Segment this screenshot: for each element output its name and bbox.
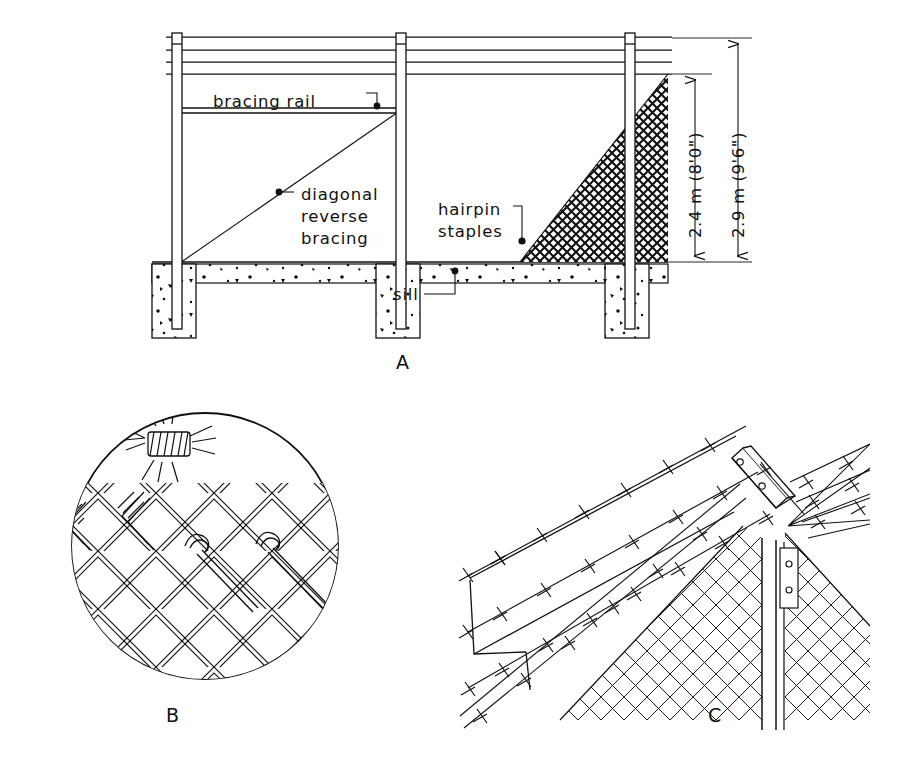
top-wire-strands [166,37,672,74]
figure-label-a: A [396,351,409,373]
post-right [625,33,635,329]
callout-diagonal-bracing-l2: reverse [301,207,369,226]
callout-sill: sill [393,285,419,304]
figure-b-mesh-detail: B [50,398,370,743]
figure-label-c: C [708,704,721,726]
leader-bracing-rail [366,93,380,109]
figure-a-elevation: bracing rail diagonal reverse bracing ha… [0,0,912,400]
post-left [172,33,182,329]
chain-link-mesh [50,483,370,743]
dimension-fabric-height: 2.4 m (8'0") [686,132,705,238]
figure-label-b: B [166,704,179,726]
leader-diagonal-bracing [276,189,294,196]
post-bolt-plate [780,548,798,608]
dimension-overall-height: 2.9 m (9'6") [729,132,748,238]
figure-c-arm-detail: C [440,398,870,743]
wire-convergence-fan [788,444,870,526]
callout-diagonal-bracing-l3: bracing [301,229,369,248]
drawing-sheet: bracing rail diagonal reverse bracing ha… [0,0,912,762]
callout-diagonal-bracing-l1: diagonal [301,185,378,204]
callout-hairpin-staples-l1: hairpin [438,200,501,219]
callout-bracing-rail: bracing rail [213,92,316,111]
callout-hairpin-staples-l2: staples [438,222,503,241]
chain-link-fabric-left [560,526,762,720]
chain-link-fabric [520,74,668,262]
leader-hairpin-staples [513,206,526,245]
